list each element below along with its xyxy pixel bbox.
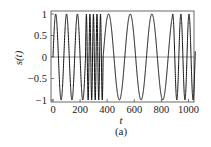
x-axis-ticks: 02004006008001000	[50, 99, 199, 115]
x-tick-label: 0	[50, 104, 55, 115]
x-tick-label: 400	[99, 104, 115, 115]
x-tick-label: 800	[154, 104, 170, 115]
x-tick-label: 600	[126, 104, 142, 115]
x-tick-label: 1000	[178, 104, 199, 115]
y-tick-label: 0.5	[34, 30, 47, 41]
y-tick-label: −0.5	[28, 73, 47, 84]
figure-caption: (a)	[115, 125, 128, 138]
x-tick-label: 200	[72, 104, 88, 115]
y-tick-label: −1	[36, 95, 47, 106]
y-axis-ticks: 10.50−0.5−1	[28, 9, 54, 106]
y-axis-label: s(t)	[12, 50, 25, 65]
chart-figure: 10.50−0.5−1 02004006008001000 s(t) t (a)	[0, 0, 211, 147]
y-tick-label: 0	[42, 52, 47, 63]
y-tick-label: 1	[42, 9, 47, 20]
